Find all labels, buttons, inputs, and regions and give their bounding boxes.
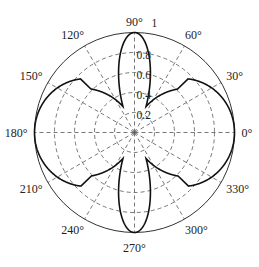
angular-grid-line	[48, 133, 135, 183]
radial-tick-label: 0.8	[137, 49, 152, 61]
radial-tick-label: 1	[152, 17, 158, 29]
angle-tick-label: 210°	[20, 182, 43, 196]
angular-grid-line	[48, 83, 135, 133]
angle-tick-label: 90°	[126, 15, 143, 29]
angle-tick-label: 0°	[242, 126, 253, 140]
angle-tick-label: 330°	[226, 182, 249, 196]
angle-tick-label: 240°	[61, 223, 84, 237]
angle-tick-label: 150°	[20, 69, 43, 83]
angle-tick-label: 270°	[123, 241, 146, 255]
angle-tick-label: 180°	[5, 126, 28, 140]
angle-tick-label: 300°	[185, 223, 208, 237]
angular-grid-line	[135, 133, 222, 183]
polar-chart: 0°30°60°90°120°150°180°210°240°270°300°3…	[0, 0, 259, 267]
radial-tick-label: 0.6	[137, 69, 152, 81]
radial-tick-label: 0.2	[137, 109, 152, 121]
polar-grid	[35, 33, 235, 233]
radial-tick-label: 0.4	[137, 89, 152, 101]
angle-tick-label: 30°	[226, 69, 243, 83]
axis-labels: 0°30°60°90°120°150°180°210°240°270°300°3…	[5, 15, 253, 255]
angle-tick-label: 60°	[185, 28, 202, 42]
angle-tick-label: 120°	[61, 28, 84, 42]
